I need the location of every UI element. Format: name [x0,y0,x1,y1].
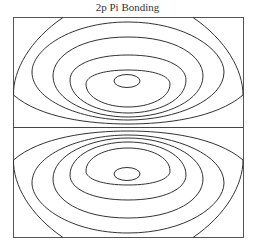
orbital-contour-plot [0,0,255,252]
lower-lobe-contours [13,131,243,238]
upper-lobe-contours [13,18,243,125]
